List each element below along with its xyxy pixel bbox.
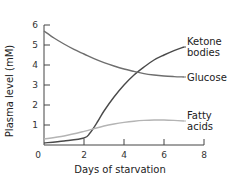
series-label-fatty-acids: Fattyacids [187,110,213,132]
series-layer [44,31,184,143]
series-label-line: Fatty [187,110,212,121]
series-label-line: bodies [187,47,220,58]
y-tick-label: 2 [32,100,38,110]
x-axis: 02468 [35,139,207,160]
line-chart: 123456 02468 KetonebodiesGlucoseFattyaci… [0,0,236,176]
x-tick-label: 4 [121,150,127,160]
y-tick-label: 1 [32,120,38,130]
y-tick-label: 4 [32,60,38,70]
series-label-ketone-bodies: Ketonebodies [187,36,222,58]
y-tick-label: 6 [32,20,38,30]
x-tick-label: 8 [201,150,207,160]
series-label-glucose: Glucose [187,72,227,83]
x-tick-label: 6 [161,150,167,160]
series-line-fatty-acids [44,120,184,139]
series-labels: KetonebodiesGlucoseFattyacids [184,36,227,132]
series-line-glucose [44,31,184,77]
series-label-line: Glucose [187,72,227,83]
y-axis: 123456 [32,20,50,145]
x-tick-label: 2 [81,150,87,160]
y-tick-label: 3 [32,80,38,90]
series-label-line: acids [187,121,213,132]
x-axis-title: Days of starvation [74,164,166,175]
series-line-ketone-bodies [44,47,184,143]
series-label-line: Ketone [187,36,222,47]
y-tick-label: 5 [32,40,38,50]
y-axis-title: Plasma level (mM) [4,45,15,137]
x-tick-label: 0 [35,150,41,160]
